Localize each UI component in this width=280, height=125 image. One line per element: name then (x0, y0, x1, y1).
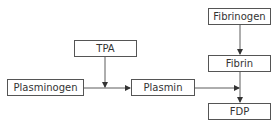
node-label: FDP (230, 106, 249, 117)
node-fdp: FDP (208, 103, 271, 120)
node-label: TPA (96, 43, 114, 54)
node-tpa: TPA (74, 40, 137, 57)
node-label: Fibrin (226, 58, 253, 69)
node-plasminogen: Plasminogen (7, 79, 84, 96)
node-label: Fibrinogen (213, 11, 265, 22)
node-label: Plasminogen (14, 82, 78, 93)
node-plasmin: Plasmin (131, 79, 195, 96)
node-fibrinogen: Fibrinogen (208, 8, 271, 25)
node-label: Plasmin (143, 82, 182, 93)
node-fibrin: Fibrin (208, 55, 271, 72)
